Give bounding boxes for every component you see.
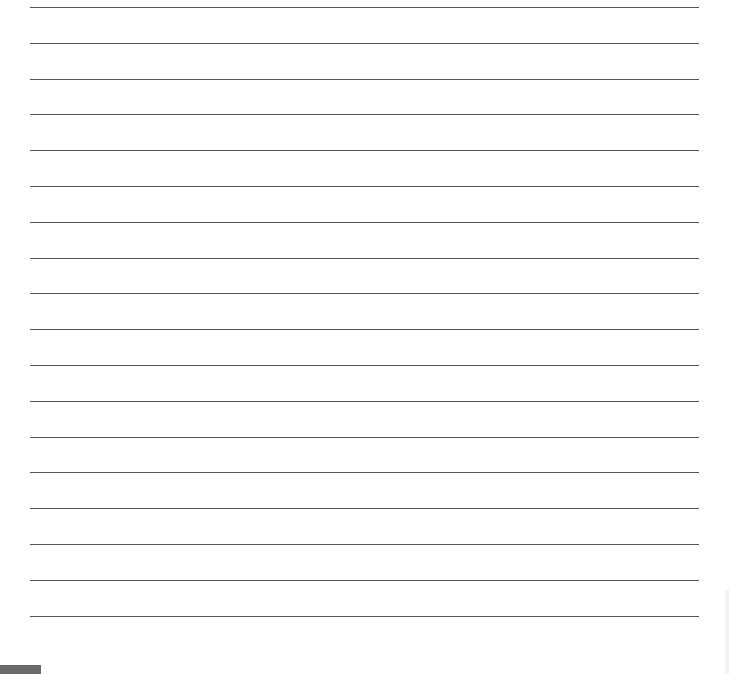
corner-tab [0,665,41,674]
ruled-line [30,616,699,617]
ruled-line [30,472,699,473]
ruled-line [30,186,699,187]
ruled-line [30,114,699,115]
ruled-line [30,544,699,545]
ruled-line [30,150,699,151]
ruled-line [30,79,699,80]
ruled-line [30,329,699,330]
ruled-line [30,437,699,438]
ruled-line [30,43,699,44]
ruled-line [30,580,699,581]
ruled-line [30,401,699,402]
ruled-line [30,7,699,8]
ruled-line [30,293,699,294]
ruled-line [30,508,699,509]
ruled-line [30,258,699,259]
page-edge-shadow [725,590,729,674]
ruled-line [30,222,699,223]
ruled-line [30,365,699,366]
